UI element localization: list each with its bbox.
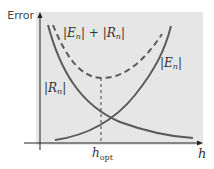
en-label: |En|: [160, 56, 182, 71]
total-label: |En| + |Rn|: [63, 26, 125, 41]
x-axis-label: h: [198, 146, 206, 161]
rn-label: |Rn|: [44, 81, 66, 96]
hopt-label: hopt: [92, 146, 114, 162]
y-axis-label: Error: [7, 9, 34, 22]
error-diagram: Error h |En| + |Rn| |En| |Rn| hopt: [0, 0, 214, 169]
